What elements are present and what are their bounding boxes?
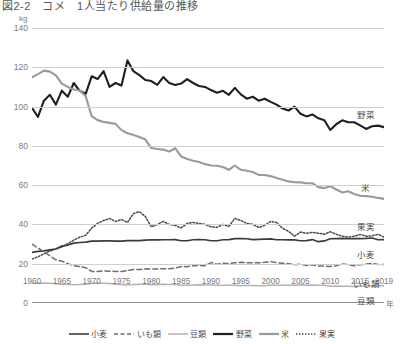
legend-swatch-米: [259, 330, 279, 338]
y-tick-label: 40: [19, 219, 28, 229]
chart-legend: 小麦いも類豆類野菜米果実: [0, 328, 403, 339]
series-label-imorui: いも類: [353, 277, 380, 289]
gridline: [32, 28, 384, 29]
legend-swatch-豆類: [168, 330, 188, 338]
series-line-果実: [32, 212, 384, 259]
legend-item-米[interactable]: 米: [259, 328, 290, 339]
legend-label: 小麦: [91, 328, 107, 339]
x-tick-label: 1990: [202, 277, 220, 286]
gridline: [32, 67, 384, 68]
series-label-kajitsu: 果実: [357, 220, 375, 232]
figure-title: 図2-2 コメ 1人当たり供給量の推移: [2, 0, 199, 13]
series-label-mamerui: 豆類: [357, 294, 375, 306]
x-tick-label: 1980: [142, 277, 160, 286]
chart-plot-area: 140120100806040200: [32, 28, 384, 303]
series-label-komugi: 小麦: [357, 248, 375, 260]
x-axis-line: [32, 302, 384, 303]
y-tick-label: 20: [19, 259, 28, 269]
gridline: [32, 264, 384, 265]
x-tick-label: 1995: [232, 277, 250, 286]
y-tick-label: 100: [14, 102, 28, 112]
x-tick-label: 2005: [291, 277, 309, 286]
x-tick-label: 1975: [112, 277, 130, 286]
legend-item-野菜[interactable]: 野菜: [213, 328, 252, 339]
gridline: [32, 146, 384, 147]
legend-swatch-いも類: [114, 330, 134, 338]
y-tick-label: 0: [23, 298, 28, 308]
x-tick-label: 1985: [172, 277, 190, 286]
x-tick-label: 1960: [23, 277, 41, 286]
legend-label: 米: [281, 328, 289, 339]
x-tick-label: 1965: [53, 277, 71, 286]
legend-label: 野菜: [236, 328, 252, 339]
series-line-米: [32, 71, 384, 199]
series-label-kome: 米: [361, 181, 370, 193]
series-label-yasai: 野菜: [357, 108, 375, 120]
y-tick-label: 80: [19, 141, 28, 151]
y-tick-label: 140: [14, 23, 28, 33]
legend-item-豆類[interactable]: 豆類: [168, 328, 207, 339]
legend-swatch-野菜: [213, 330, 233, 338]
legend-swatch-果実: [296, 330, 316, 338]
series-line-いも類: [32, 244, 384, 272]
y-tick-label: 120: [14, 62, 28, 72]
gridline: [32, 224, 384, 225]
x-axis-unit-label: 年: [386, 298, 394, 309]
legend-swatch-小麦: [69, 330, 89, 338]
x-tick-label: 2000: [262, 277, 280, 286]
legend-item-小麦[interactable]: 小麦: [69, 328, 108, 339]
series-line-小麦: [32, 238, 384, 252]
gridline: [32, 185, 384, 186]
x-tick-label: 2010: [321, 277, 339, 286]
x-tick-label: 1970: [83, 277, 101, 286]
y-axis-unit-label: kg: [19, 14, 27, 23]
legend-item-いも類[interactable]: いも類: [114, 328, 161, 339]
legend-label: 豆類: [190, 328, 206, 339]
legend-label: いも類: [137, 328, 161, 339]
y-tick-label: 60: [19, 180, 28, 190]
legend-item-果実[interactable]: 果実: [296, 328, 335, 339]
gridline: [32, 107, 384, 108]
legend-label: 果実: [319, 328, 335, 339]
chart-lines: [32, 28, 384, 303]
